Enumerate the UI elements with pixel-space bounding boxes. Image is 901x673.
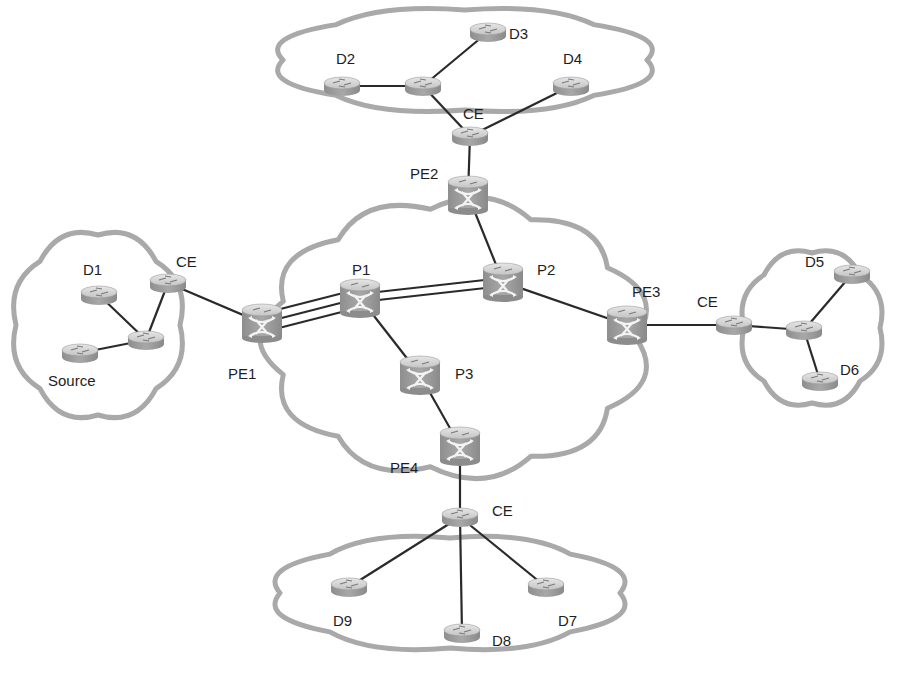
router-icon-r-top bbox=[405, 77, 441, 96]
router-icon-d2 bbox=[324, 77, 360, 96]
router-icon-ce-bottom bbox=[442, 508, 478, 527]
router-icon-d5 bbox=[834, 265, 870, 284]
network-topology-diagram bbox=[0, 0, 901, 673]
router-icon-d8 bbox=[444, 624, 480, 643]
site-cloud-left bbox=[14, 232, 183, 417]
router-icon-d3 bbox=[470, 23, 506, 42]
router-icon-r-left bbox=[128, 331, 164, 350]
site-cloud-top bbox=[278, 9, 653, 112]
router-icon-d7 bbox=[528, 578, 564, 597]
router-icon-ce-right bbox=[716, 316, 752, 335]
switch-router-icon-pe1 bbox=[242, 304, 282, 343]
router-icon-source bbox=[62, 344, 98, 363]
switch-router-icon-p1 bbox=[340, 279, 380, 318]
switch-router-icon-pe4 bbox=[440, 427, 480, 466]
router-icon-d1 bbox=[81, 286, 117, 305]
switch-router-icon-pe3 bbox=[607, 306, 647, 345]
router-icon-d9 bbox=[331, 578, 367, 597]
switch-router-icon-p2 bbox=[483, 263, 523, 302]
switch-router-icon-p3 bbox=[400, 356, 440, 395]
router-icon-r-right bbox=[786, 321, 822, 340]
router-icon-ce-top bbox=[452, 127, 488, 146]
router-icon-d4 bbox=[553, 77, 589, 96]
router-icon-ce-left bbox=[150, 274, 186, 293]
router-icon-d6 bbox=[802, 372, 838, 391]
switch-router-icon-pe2 bbox=[448, 176, 488, 215]
